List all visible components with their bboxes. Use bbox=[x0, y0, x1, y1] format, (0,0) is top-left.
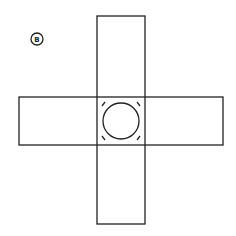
corner-tick-bottom-left bbox=[102, 136, 105, 140]
cross-diagram: B bbox=[0, 0, 236, 236]
corner-tick-top-left bbox=[102, 102, 105, 106]
corner-tick-top-right bbox=[137, 102, 140, 106]
corner-tick-bottom-right bbox=[137, 136, 140, 140]
center-circle bbox=[103, 103, 139, 139]
label-marker: B bbox=[31, 33, 43, 45]
label-b: B bbox=[34, 36, 39, 44]
vertical-rectangle bbox=[97, 16, 145, 224]
corner-ticks bbox=[102, 102, 140, 140]
horizontal-rectangle bbox=[19, 97, 223, 145]
